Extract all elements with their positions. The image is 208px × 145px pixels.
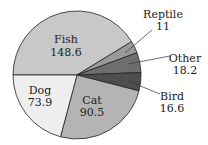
label-fish-name: Fish	[54, 33, 78, 46]
pie-chart: Fish 148.6 Reptile 11 Other 18.2 Bird 16…	[0, 0, 208, 145]
label-cat-value: 90.5	[80, 106, 105, 119]
label-reptile-value: 11	[156, 20, 170, 33]
label-fish-value: 148.6	[50, 46, 82, 59]
label-other-value: 18.2	[173, 64, 198, 77]
label-dog-value: 73.9	[28, 96, 53, 109]
label-bird-value: 16.6	[160, 102, 185, 115]
